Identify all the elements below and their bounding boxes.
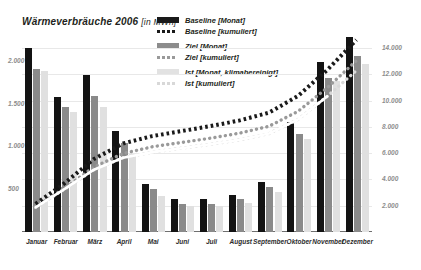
y-axis-right-tick: 6.000 xyxy=(382,149,398,156)
bar-group xyxy=(80,35,109,232)
legend-item[interactable]: Baseline [Monat] xyxy=(157,15,278,25)
bar-baseline[interactable] xyxy=(287,122,294,232)
y-axis-left-tick: 1.500 xyxy=(8,100,24,107)
bar-ist[interactable] xyxy=(245,203,252,232)
bar-group xyxy=(110,35,139,232)
bar-ist[interactable] xyxy=(158,196,165,232)
bar-ziel[interactable] xyxy=(296,134,303,232)
x-axis-tick-label: November xyxy=(312,238,344,245)
bar-baseline[interactable] xyxy=(200,199,207,232)
x-axis-tick-label: März xyxy=(88,238,103,245)
bar-group xyxy=(168,35,197,232)
y-axis-right-tick: 2.000 xyxy=(382,202,398,209)
chart-container: Wärmeverbräuche 2006 [in MWh] Baseline [… xyxy=(0,0,421,270)
bar-ziel[interactable] xyxy=(179,204,186,232)
x-axis-tick-label: September xyxy=(253,238,287,245)
bar-ziel[interactable] xyxy=(62,107,69,232)
y-axis-left-tick: 500 xyxy=(8,185,19,192)
bar-baseline[interactable] xyxy=(142,184,149,232)
legend-swatch-dark xyxy=(157,17,179,23)
bar-ist[interactable] xyxy=(41,71,48,232)
legend-group-1: Baseline [Monat]Baseline [kumuliert] xyxy=(157,15,278,36)
bar-baseline[interactable] xyxy=(83,75,90,232)
x-axis-tick-label: Dezember xyxy=(342,238,373,245)
bar-ist[interactable] xyxy=(275,192,282,232)
bar-ziel[interactable] xyxy=(91,96,98,232)
x-axis-tick-label: Mai xyxy=(148,238,159,245)
bar-group xyxy=(51,35,80,232)
page-title: Wärmeverbräuche 2006 [in MWh] xyxy=(22,16,176,27)
bar-group xyxy=(314,35,343,232)
legend-dots-dark xyxy=(157,28,179,34)
y-axis-right-tick: 12.000 xyxy=(382,70,402,77)
bar-ist[interactable] xyxy=(100,107,107,232)
bar-ziel[interactable] xyxy=(266,187,273,232)
y-axis-right-tick: 8.000 xyxy=(382,123,398,130)
y-axis-right-tick: 10.000 xyxy=(382,97,402,104)
y-axis-left-tick: 2.000 xyxy=(8,57,24,64)
bar-ziel[interactable] xyxy=(121,143,128,232)
bar-group xyxy=(255,35,284,232)
bar-baseline[interactable] xyxy=(112,131,119,232)
bar-baseline[interactable] xyxy=(229,195,236,232)
bar-group xyxy=(22,35,51,232)
x-axis-tick-label: Januar xyxy=(26,238,47,245)
bar-group xyxy=(343,35,372,232)
bar-ziel[interactable] xyxy=(325,78,332,232)
bar-ist[interactable] xyxy=(70,112,77,232)
bar-ziel[interactable] xyxy=(237,199,244,232)
bar-baseline[interactable] xyxy=(54,97,61,232)
bar-group xyxy=(285,35,314,232)
bar-ist[interactable] xyxy=(187,206,194,232)
bar-ist[interactable] xyxy=(333,81,340,232)
x-axis-tick-label: Juni xyxy=(176,238,189,245)
bar-ziel[interactable] xyxy=(33,69,40,232)
y-axis-right-tick: 4.000 xyxy=(382,175,398,182)
bar-ziel[interactable] xyxy=(150,189,157,232)
bar-baseline[interactable] xyxy=(346,37,353,232)
bar-baseline[interactable] xyxy=(171,199,178,232)
bar-ist[interactable] xyxy=(216,206,223,232)
x-axis-tick-label: August xyxy=(230,238,252,245)
bar-baseline[interactable] xyxy=(258,182,265,232)
bar-ziel[interactable] xyxy=(208,204,215,232)
bar-group xyxy=(226,35,255,232)
bar-ist[interactable] xyxy=(362,64,369,232)
bar-ist[interactable] xyxy=(304,139,311,232)
x-axis-tick-label: Februar xyxy=(54,238,78,245)
bar-baseline[interactable] xyxy=(317,62,324,232)
y-axis-left-tick: 1.000 xyxy=(8,142,24,149)
x-axis-tick-label: Juli xyxy=(206,238,217,245)
plot-area xyxy=(22,35,372,232)
x-axis-tick-label: Oktober xyxy=(287,238,312,245)
bar-ist[interactable] xyxy=(129,154,136,232)
y-axis-right-tick: 14.000 xyxy=(382,44,402,51)
bar-group xyxy=(197,35,226,232)
bar-group xyxy=(139,35,168,232)
bar-baseline[interactable] xyxy=(25,48,32,232)
x-axis-tick-label: April xyxy=(117,238,132,245)
legend-item-label: Baseline [Monat] xyxy=(185,16,245,25)
bar-ziel[interactable] xyxy=(354,56,361,232)
chart-title-main: Wärmeverbräuche 2006 xyxy=(22,16,138,27)
